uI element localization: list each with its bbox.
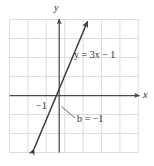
coordinate-plane-svg <box>0 0 154 166</box>
x-axis-label: x <box>143 90 147 100</box>
y-intercept-note-label: b = −1 <box>77 114 103 124</box>
graph-figure: y x y = 3x − 1 −1 b = −1 <box>0 0 154 166</box>
y-axis-label: y <box>54 3 58 13</box>
intercept-leader-line <box>62 107 76 119</box>
grid-lines <box>10 20 139 153</box>
line-y-equals-3x-minus-1 <box>34 22 88 150</box>
equation-label: y = 3x − 1 <box>74 50 115 60</box>
y-intercept-tick-label: −1 <box>36 101 47 111</box>
